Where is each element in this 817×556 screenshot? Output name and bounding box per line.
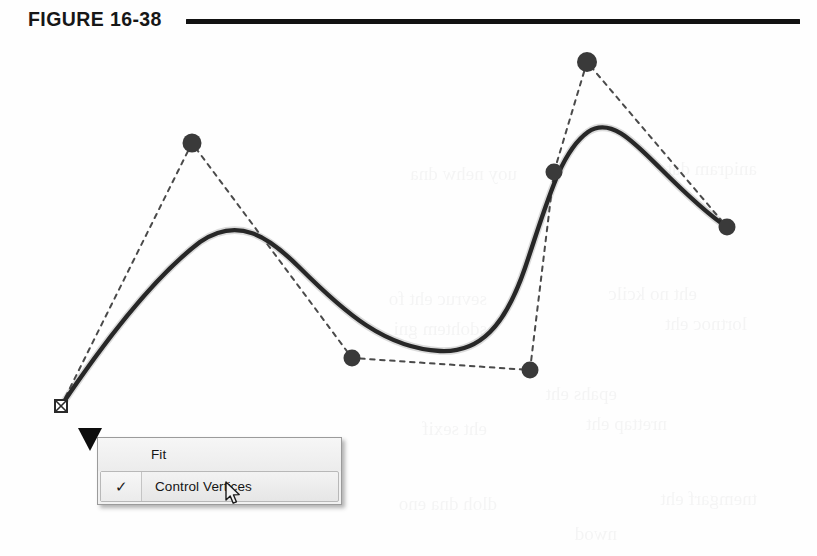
menu-item-label-fit: Fit <box>138 447 166 462</box>
check-icon-control-vertices: ✓ <box>101 472 142 501</box>
menu-item-fit[interactable]: Fit <box>98 438 341 471</box>
curve-display-popup-menu[interactable]: Fit ✓ Control Vertices <box>97 437 342 505</box>
menu-item-control-vertices[interactable]: ✓ Control Vertices <box>100 471 339 502</box>
check-icon-fit <box>98 438 138 471</box>
figure-horizontal-rule <box>186 19 800 24</box>
mouse-cursor-icon <box>225 481 242 506</box>
figure-label: FIGURE 16-38 <box>28 8 162 31</box>
figure-header: FIGURE 16-38 <box>28 8 808 31</box>
triangle-handle-icon[interactable] <box>78 428 102 451</box>
